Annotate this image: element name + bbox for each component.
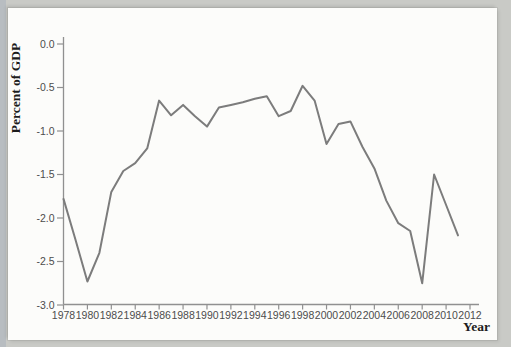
x-tick-label: 2004	[363, 309, 387, 321]
x-tick-label: 1990	[195, 309, 219, 321]
x-tick-label: 2010	[434, 309, 458, 321]
x-tick-label: 2002	[339, 309, 363, 321]
x-tick-label: 1994	[243, 309, 267, 321]
y-tick-label: -2.0	[36, 212, 54, 224]
x-tick-label: 1992	[219, 309, 243, 321]
y-tick-label: -2.5	[36, 255, 54, 267]
x-tick-label: 1988	[171, 309, 195, 321]
x-tick-label: 2006	[387, 309, 411, 321]
x-tick-label: 1982	[100, 309, 124, 321]
x-tick-label: 1998	[291, 309, 315, 321]
budget-balance-series	[64, 86, 459, 283]
y-tick-label: -1.5	[36, 168, 54, 180]
page-background: 0.0-0.5-1.0-1.5-2.0-2.5-3.01978198019821…	[0, 0, 511, 347]
deficit-line-chart: 0.0-0.5-1.0-1.5-2.0-2.5-3.01978198019821…	[0, 0, 511, 347]
x-tick-label: 2000	[315, 309, 339, 321]
x-tick-label: 1984	[124, 309, 148, 321]
x-tick-label: 1996	[267, 309, 291, 321]
x-tick-label: 1980	[76, 309, 100, 321]
y-axis-title: Percent of GDP	[8, 43, 23, 133]
x-axis-title: Year	[463, 319, 490, 334]
x-tick-label: 2008	[411, 309, 435, 321]
x-tick-label: 1978	[52, 309, 76, 321]
y-tick-label: 0.0	[40, 38, 55, 50]
x-tick-label: 1986	[147, 309, 171, 321]
y-tick-label: -0.5	[36, 81, 54, 93]
y-tick-label: -1.0	[36, 125, 54, 137]
